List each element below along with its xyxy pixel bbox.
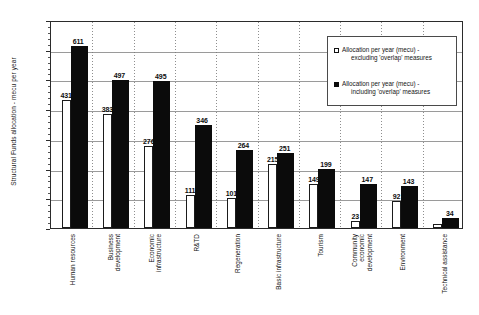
bar-including-overlap bbox=[401, 186, 418, 229]
bar-including-overlap bbox=[442, 218, 459, 228]
bar-including-overlap bbox=[360, 184, 377, 228]
category-label-line: Tourism bbox=[317, 234, 324, 312]
category-label-line: development bbox=[365, 234, 372, 312]
legend-label-excluding: Allocation per year (mecu) - excluding '… bbox=[342, 46, 432, 62]
category-label-line: Technical assistance bbox=[441, 234, 448, 312]
bar-including-overlap bbox=[318, 169, 335, 228]
category-label-line: Environment bbox=[399, 234, 406, 312]
category-label-line: economic bbox=[358, 234, 365, 312]
bar-excluding-overlap bbox=[268, 164, 277, 228]
category-label-line: Human resources bbox=[69, 234, 76, 312]
value-label-excluding: 92 bbox=[393, 193, 401, 200]
category-label-line: Community bbox=[351, 234, 358, 312]
bar-including-overlap bbox=[71, 46, 88, 228]
bar-excluding-overlap bbox=[144, 146, 153, 228]
value-label-excluding: 23 bbox=[351, 213, 359, 220]
value-label-including: 346 bbox=[196, 117, 207, 124]
bar-including-overlap bbox=[236, 150, 253, 228]
bar-including-overlap bbox=[112, 80, 129, 228]
bar-excluding-overlap bbox=[227, 198, 236, 228]
white-square-icon bbox=[334, 48, 339, 53]
value-label-including: 495 bbox=[155, 73, 166, 80]
category-separator bbox=[134, 22, 135, 228]
black-square-icon bbox=[334, 82, 339, 87]
bar-including-overlap bbox=[195, 125, 212, 228]
y-axis-title: Structural Funds allocation - mecu per y… bbox=[10, 12, 17, 232]
category-separator bbox=[258, 22, 259, 228]
legend-label-including: Allocation per year (mecu) - including '… bbox=[342, 80, 430, 96]
bar-excluding-overlap bbox=[351, 221, 360, 228]
category-separator bbox=[92, 22, 93, 228]
value-label-including: 147 bbox=[362, 176, 373, 183]
legend-item-including[interactable]: Allocation per year (mecu) - including '… bbox=[334, 80, 454, 96]
category-label-line: development bbox=[114, 234, 121, 312]
category-label-line: Basic infrastructure bbox=[275, 234, 282, 312]
legend-item-excluding[interactable]: Allocation per year (mecu) - excluding '… bbox=[334, 46, 454, 62]
bar-excluding-overlap bbox=[62, 100, 71, 228]
value-label-including: 264 bbox=[238, 142, 249, 149]
bar-excluding-overlap bbox=[103, 114, 112, 228]
value-label-including: 34 bbox=[446, 210, 454, 217]
category-label-line: Regeneration bbox=[234, 234, 241, 312]
value-label-including: 143 bbox=[403, 178, 414, 185]
category-label-line: Economic bbox=[148, 234, 155, 312]
value-label-including: 611 bbox=[73, 38, 84, 45]
value-label-including: 251 bbox=[279, 145, 290, 152]
value-label-including: 497 bbox=[114, 72, 125, 79]
category-separator bbox=[216, 22, 217, 228]
bar-including-overlap bbox=[153, 81, 170, 228]
bar-excluding-overlap bbox=[433, 224, 442, 228]
value-label-including: 199 bbox=[320, 161, 331, 168]
category-label-line: R&TD bbox=[193, 234, 200, 312]
bar-excluding-overlap bbox=[186, 195, 195, 228]
category-separator bbox=[175, 22, 176, 228]
category-label-line: Business bbox=[107, 234, 114, 312]
bar-excluding-overlap bbox=[309, 184, 318, 228]
chart-legend: Allocation per year (mecu) - excluding '… bbox=[327, 36, 457, 106]
bar-including-overlap bbox=[277, 153, 294, 228]
y-tick-mark bbox=[46, 229, 50, 230]
bar-chart-figure: Structural Funds allocation - mecu per y… bbox=[0, 0, 479, 315]
bar-excluding-overlap bbox=[392, 201, 401, 228]
category-separator bbox=[299, 22, 300, 228]
category-label-line: infrastructure bbox=[155, 234, 162, 312]
